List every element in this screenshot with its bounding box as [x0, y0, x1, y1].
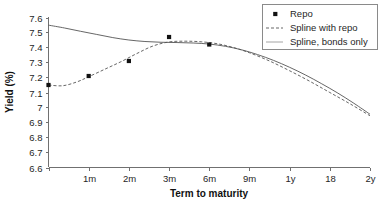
legend-label: Spline with repo	[290, 22, 358, 33]
legend-marker-swatch	[273, 12, 277, 16]
x-tick-label: 1m	[83, 173, 96, 184]
x-axis-group: 1m2m3m6m9m1y182y	[49, 168, 376, 184]
y-tick-label: 6.9	[29, 117, 42, 128]
y-tick-label: 7.1	[29, 88, 42, 99]
legend: RepoSpline with repoSpline, bonds only	[263, 5, 378, 50]
repo-marker	[87, 74, 91, 78]
yield-curve-chart: 7.67.57.47.37.27.176.96.86.76.6 1m2m3m6m…	[0, 0, 382, 208]
x-tick-label: 6m	[203, 173, 216, 184]
legend-label: Spline, bonds only	[290, 36, 368, 47]
y-tick-label: 7.4	[29, 42, 42, 53]
y-tick-label: 6.8	[29, 132, 42, 143]
y-tick-label: 7.2	[29, 72, 42, 83]
y-tick-labels: 7.67.57.47.37.27.176.96.86.76.6	[29, 13, 42, 174]
y-tick-label: 7.6	[29, 13, 42, 24]
repo-marker	[127, 59, 131, 63]
repo-marker	[167, 35, 171, 39]
x-axis-title: Term to maturity	[170, 188, 249, 199]
x-tick-label: 1y	[285, 173, 295, 184]
y-tick-label: 7.5	[29, 27, 42, 38]
x-tick-label: 2m	[123, 173, 136, 184]
x-tick-marks	[50, 168, 371, 172]
repo-marker	[207, 42, 211, 46]
x-tick-label: 18	[325, 173, 336, 184]
chart-canvas: 7.67.57.47.37.27.176.96.86.76.6 1m2m3m6m…	[0, 0, 382, 208]
spline-with-repo-curve	[49, 41, 371, 116]
repo-marker	[46, 83, 50, 87]
x-tick-label: 9m	[243, 173, 256, 184]
x-tick-label: 3m	[163, 173, 176, 184]
y-tick-label: 7	[37, 102, 42, 113]
y-axis-title: Yield (%)	[4, 71, 15, 113]
y-tick-label: 6.6	[29, 163, 42, 174]
x-tick-labels: 1m2m3m6m9m1y182y	[83, 173, 376, 184]
y-tick-label: 6.7	[29, 147, 42, 158]
legend-label: Repo	[290, 8, 313, 19]
y-tick-label: 7.3	[29, 57, 42, 68]
y-axis-group: 7.67.57.47.37.27.176.96.86.76.6	[29, 13, 48, 174]
x-tick-label: 2y	[365, 173, 375, 184]
